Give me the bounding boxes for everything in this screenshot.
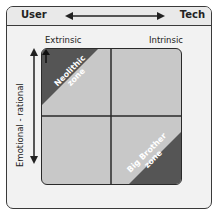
tech-label: Tech (180, 9, 205, 20)
diagram-frame: User Tech Extrinsic Intrinsic Emotional … (6, 6, 212, 209)
intrinsic-label: Intrinsic (149, 35, 183, 45)
extrinsic-label: Extrinsic (45, 35, 81, 45)
quadrant-grid: Neolithic zone Big Brother zone (41, 48, 182, 185)
double-arrow-horizontal-icon (65, 11, 165, 21)
user-label: User (21, 9, 47, 20)
double-arrow-vertical-icon (29, 48, 39, 164)
emotional-rational-label: Emotional - rational (15, 83, 25, 167)
header-bar: User Tech (7, 7, 211, 26)
up-arrow-icon (42, 49, 50, 63)
